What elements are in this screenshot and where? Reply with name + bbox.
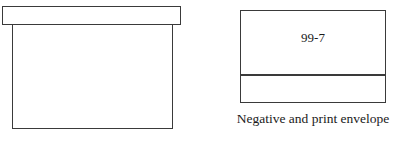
envelope-number-label: 99-7 (240, 31, 386, 44)
shoe-box-lid-rectangle (2, 6, 181, 25)
diagram-canvas: 99 Shoe box 99-7 Negative and print enve… (0, 0, 406, 142)
envelope-divider-line (240, 74, 386, 76)
shoe-box-body-rectangle (12, 24, 173, 129)
shoe-box-figure: 99 Shoe box (0, 0, 200, 142)
envelope-outer-rectangle (240, 10, 386, 103)
envelope-caption-label: Negative and print envelope (221, 112, 405, 126)
